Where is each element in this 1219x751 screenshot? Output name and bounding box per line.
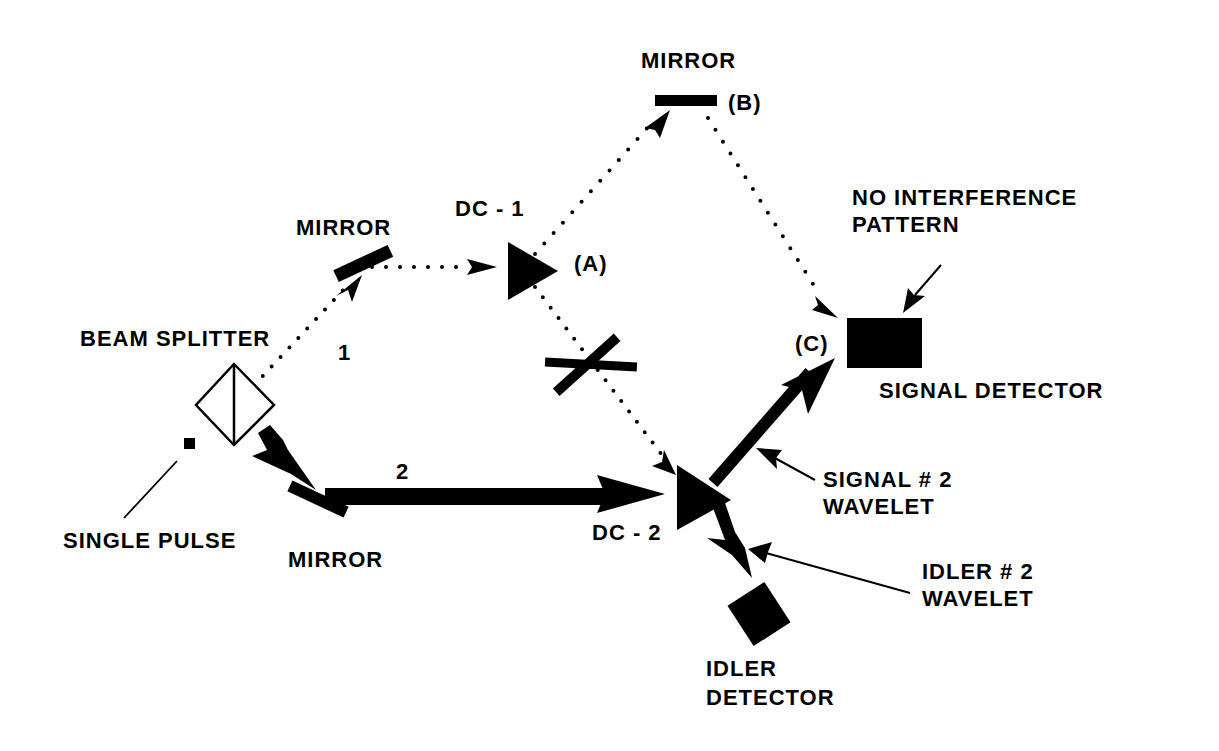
- arrowhead-icon: [652, 450, 676, 475]
- signal-wavelet-label-line1: SIGNAL # 2: [823, 467, 952, 493]
- single-pulse-source: [184, 438, 195, 449]
- dc2-label: DC - 2: [592, 520, 662, 546]
- signal-detector-marker: (C): [795, 331, 829, 357]
- signal-detector: [847, 318, 922, 368]
- path-2-thick-arrow-bs-to-mirror: [252, 425, 316, 490]
- dc1-to-mirror-b-dotted-beam: [535, 110, 670, 254]
- arrowhead-icon: [467, 259, 497, 275]
- signal-wavelet-leader-arrow: [756, 448, 815, 480]
- mirror-to-dc1-dotted-beam: [372, 259, 497, 275]
- dc1-label: DC - 1: [455, 196, 525, 222]
- signal-detector-label: SIGNAL DETECTOR: [879, 378, 1103, 404]
- signal-wavelet-label-line2: WAVELET: [823, 494, 935, 520]
- single-pulse-label: SINGLE PULSE: [63, 528, 236, 554]
- idler-2-thick-arrow: [707, 500, 752, 578]
- arrowhead-icon: [812, 296, 838, 318]
- mirror-bottom-label: MIRROR: [288, 547, 383, 573]
- blocker-icon: [545, 334, 637, 396]
- no-interference-label-line1: NO INTERFERENCE: [852, 185, 1077, 211]
- idler-wavelet-label-line2: WAVELET: [922, 586, 1034, 612]
- dc1-to-dc2-dotted-beam: [535, 287, 676, 475]
- beam-splitter-label: BEAM SPLITTER: [80, 326, 270, 352]
- path-2-label: 2: [396, 459, 409, 485]
- path-1-label: 1: [338, 340, 351, 366]
- arrowhead-icon: [645, 110, 670, 138]
- mirror-left: [333, 245, 393, 282]
- dc1-marker: (A): [574, 251, 608, 277]
- dc1-crystal: [508, 242, 558, 300]
- no-interference-leader-arrow: [903, 265, 941, 313]
- mirror-left-label: MIRROR: [296, 215, 391, 241]
- idler-detector: [727, 582, 790, 646]
- mirror-b-to-signal-dotted-beam: [708, 118, 838, 318]
- idler-detector-label-line2: DETECTOR: [706, 685, 835, 711]
- path-2-thick-arrow-mirror-to-dc2: [325, 475, 665, 513]
- mirror-b-label: MIRROR: [641, 48, 736, 74]
- single-pulse-leader-line: [124, 461, 177, 518]
- idler-detector-label-line1: IDLER: [706, 656, 777, 682]
- idler-wavelet-leader-arrow: [748, 542, 910, 593]
- no-interference-label-line2: PATTERN: [852, 212, 960, 238]
- mirror-b-marker: (B): [728, 90, 762, 116]
- optical-setup-diagram: [0, 0, 1219, 751]
- mirror-b: [655, 95, 717, 106]
- idler-wavelet-label-line1: IDLER # 2: [922, 559, 1034, 585]
